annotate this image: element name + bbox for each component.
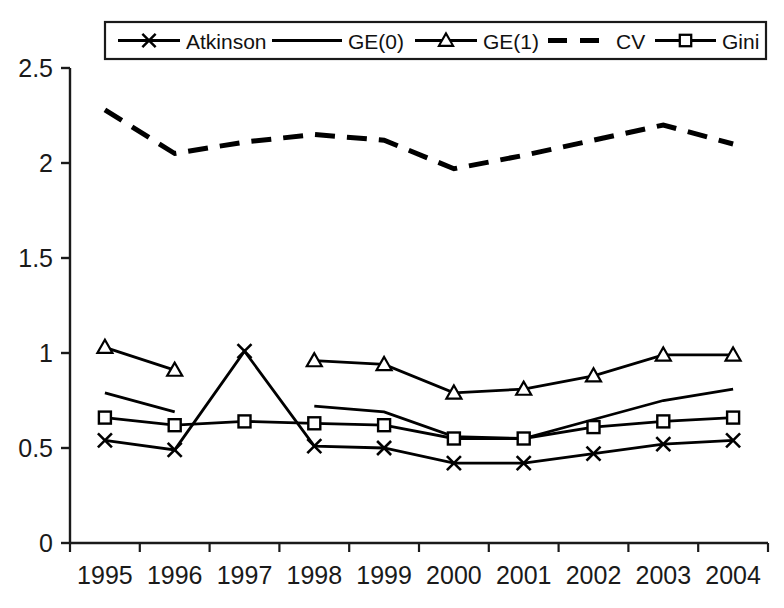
x-tick-label: 2003 bbox=[635, 561, 691, 589]
series-cv bbox=[105, 110, 733, 169]
series-line bbox=[105, 393, 175, 412]
square-marker-icon bbox=[657, 415, 669, 427]
y-axis-tick-labels: 00.511.522.5 bbox=[18, 54, 53, 557]
x-tick-label: 1999 bbox=[356, 561, 412, 589]
y-tick-label: 1 bbox=[39, 339, 53, 367]
x-marker-icon bbox=[238, 344, 252, 358]
y-tick-label: 0.5 bbox=[18, 434, 53, 462]
legend-label: Gini bbox=[722, 30, 759, 53]
x-tick-label: 1997 bbox=[217, 561, 273, 589]
chart-axes bbox=[61, 68, 768, 552]
square-marker-icon bbox=[727, 412, 739, 424]
y-tick-label: 0 bbox=[39, 529, 53, 557]
legend-label: Atkinson bbox=[186, 30, 267, 53]
x-axis-tick-labels: 1995199619971998199920002001200220032004 bbox=[77, 561, 761, 589]
x-tick-label: 1998 bbox=[286, 561, 342, 589]
x-tick-label: 1996 bbox=[147, 561, 203, 589]
x-tick-label: 1995 bbox=[77, 561, 133, 589]
series-line bbox=[105, 418, 733, 439]
square-marker-icon bbox=[518, 433, 530, 445]
series-line bbox=[105, 110, 733, 169]
chart-container: AtkinsonGE(0)GE(1)CVGini 00.511.522.5 19… bbox=[0, 0, 784, 608]
x-tick-label: 2000 bbox=[426, 561, 482, 589]
x-tick-label: 2001 bbox=[496, 561, 552, 589]
triangle-marker-icon bbox=[97, 340, 112, 353]
y-tick-label: 2 bbox=[39, 149, 53, 177]
series-line bbox=[105, 347, 175, 370]
square-marker-icon bbox=[588, 421, 600, 433]
legend-label: GE(1) bbox=[483, 30, 539, 53]
y-tick-label: 2.5 bbox=[18, 54, 53, 82]
square-marker-icon bbox=[680, 35, 691, 46]
x-tick-label: 2002 bbox=[566, 561, 622, 589]
square-marker-icon bbox=[378, 419, 390, 431]
chart-series-group bbox=[97, 110, 740, 470]
legend-label: GE(0) bbox=[348, 30, 404, 53]
x-tick-label: 2004 bbox=[705, 561, 761, 589]
square-marker-icon bbox=[308, 417, 320, 429]
chart-legend: AtkinsonGE(0)GE(1)CVGini bbox=[105, 22, 766, 59]
legend-label: CV bbox=[616, 30, 645, 53]
square-marker-icon bbox=[99, 412, 111, 424]
square-marker-icon bbox=[448, 433, 460, 445]
line-chart: AtkinsonGE(0)GE(1)CVGini 00.511.522.5 19… bbox=[0, 0, 784, 608]
series-gini bbox=[99, 412, 739, 445]
square-marker-icon bbox=[169, 419, 181, 431]
series-ge1 bbox=[97, 340, 740, 399]
square-marker-icon bbox=[239, 415, 251, 427]
y-tick-label: 1.5 bbox=[18, 244, 53, 272]
